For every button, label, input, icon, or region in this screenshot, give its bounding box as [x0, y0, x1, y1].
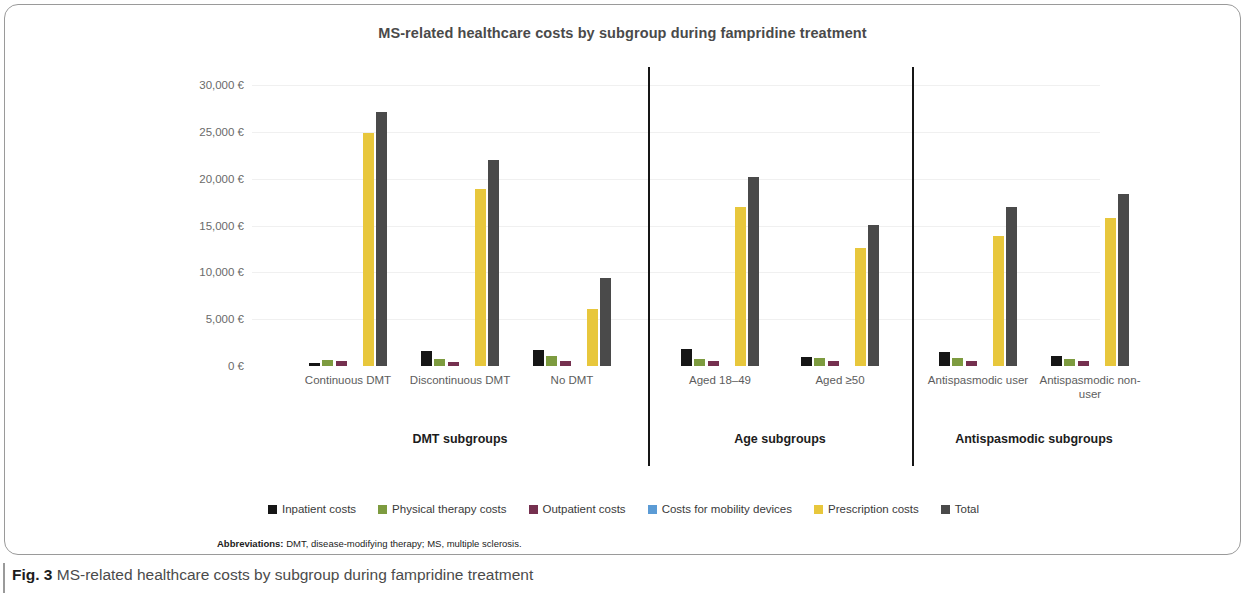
- bar: [801, 357, 812, 366]
- y-axis-tick-label: 15,000 €: [199, 220, 244, 232]
- bar: [475, 189, 486, 366]
- legend-label: Total: [955, 503, 979, 515]
- legend-swatch-icon: [529, 505, 538, 514]
- bar: [1118, 194, 1129, 366]
- bar: [708, 361, 719, 366]
- category-label: Aged 18–49: [665, 373, 775, 387]
- legend-swatch-icon: [378, 505, 387, 514]
- bar: [488, 160, 499, 366]
- section-label: DMT subgroups: [350, 432, 570, 446]
- y-axis-tick-label: 0 €: [228, 360, 244, 372]
- bar: [939, 352, 950, 366]
- bar-group: [309, 85, 388, 366]
- y-axis-tick-label: 10,000 €: [199, 266, 244, 278]
- bar: [993, 236, 1004, 366]
- bar: [363, 133, 374, 366]
- legend-label: Costs for mobility devices: [662, 503, 792, 515]
- bar: [336, 361, 347, 366]
- legend-item[interactable]: Physical therapy costs: [378, 503, 506, 515]
- bar: [376, 112, 387, 366]
- legend-item[interactable]: Prescription costs: [814, 503, 919, 515]
- bar: [1064, 359, 1075, 366]
- bar: [1078, 361, 1089, 366]
- bar: [735, 207, 746, 366]
- bar-group: [533, 85, 612, 366]
- category-label: Discontinuous DMT: [405, 373, 515, 387]
- legend-swatch-icon: [814, 505, 823, 514]
- abbreviations-note: Abbreviations: DMT, disease-modifying th…: [217, 538, 522, 549]
- figure-caption: Fig. 3 MS-related healthcare costs by su…: [12, 566, 533, 584]
- figure-panel: MS-related healthcare costs by subgroup …: [4, 4, 1241, 555]
- bar: [814, 358, 825, 366]
- category-label: Antispasmodic non-user: [1035, 373, 1145, 401]
- bar: [694, 359, 705, 366]
- bar: [1105, 218, 1116, 366]
- bar: [421, 351, 432, 366]
- bar: [966, 361, 977, 366]
- figure-caption-text: MS-related healthcare costs by subgroup …: [57, 566, 533, 583]
- bar: [434, 359, 445, 366]
- bar: [309, 363, 320, 366]
- category-label: No DMT: [517, 373, 627, 387]
- bar: [587, 309, 598, 366]
- y-axis-tick-label: 30,000 €: [199, 79, 244, 91]
- category-label: Continuous DMT: [293, 373, 403, 387]
- bar: [533, 350, 544, 366]
- legend-label: Physical therapy costs: [392, 503, 506, 515]
- bar-group: [801, 85, 880, 366]
- bar: [828, 361, 839, 366]
- caption-rule: [3, 563, 5, 593]
- bar-group: [421, 85, 500, 366]
- plot-area: [252, 85, 1100, 366]
- bar: [600, 278, 611, 366]
- y-axis-tick-label: 5,000 €: [206, 313, 244, 325]
- y-axis-tick-label: 20,000 €: [199, 173, 244, 185]
- bar-group: [939, 85, 1018, 366]
- bar: [546, 356, 557, 366]
- section-label: Age subgroups: [670, 432, 890, 446]
- bar: [855, 248, 866, 366]
- y-axis: 0 €5,000 €10,000 €15,000 €20,000 €25,000…: [180, 85, 248, 370]
- legend-item[interactable]: Outpatient costs: [529, 503, 626, 515]
- legend-item[interactable]: Total: [941, 503, 979, 515]
- bar: [681, 349, 692, 366]
- legend-label: Outpatient costs: [543, 503, 626, 515]
- legend-swatch-icon: [268, 505, 277, 514]
- bar: [1006, 207, 1017, 366]
- legend-label: Prescription costs: [828, 503, 919, 515]
- category-labels: Continuous DMTDiscontinuous DMTNo DMTAge…: [252, 373, 1112, 407]
- section-label: Antispasmodic subgroups: [924, 432, 1144, 446]
- category-label: Antispasmodic user: [923, 373, 1033, 387]
- bar-group: [1051, 85, 1130, 366]
- legend-item[interactable]: Costs for mobility devices: [648, 503, 792, 515]
- bar: [748, 177, 759, 366]
- bar: [560, 361, 571, 366]
- legend-swatch-icon: [648, 505, 657, 514]
- bar: [868, 225, 879, 366]
- chart-legend: Inpatient costsPhysical therapy costsOut…: [5, 503, 1242, 515]
- bar: [952, 358, 963, 366]
- y-axis-tick-label: 25,000 €: [199, 126, 244, 138]
- bar-group: [681, 85, 760, 366]
- section-labels: DMT subgroupsAge subgroupsAntispasmodic …: [252, 432, 1112, 452]
- bar: [322, 360, 333, 366]
- legend-swatch-icon: [941, 505, 950, 514]
- bar: [448, 362, 459, 366]
- bar: [1051, 356, 1062, 366]
- legend-label: Inpatient costs: [282, 503, 356, 515]
- chart-title: MS-related healthcare costs by subgroup …: [5, 25, 1240, 41]
- category-label: Aged ≥50: [785, 373, 895, 387]
- abbreviations-text: DMT, disease-modifying therapy; MS, mult…: [286, 538, 521, 549]
- chart-plot: 0 €5,000 €10,000 €15,000 €20,000 €25,000…: [180, 85, 1100, 370]
- figure-number: Fig. 3: [12, 566, 52, 583]
- abbreviations-label: Abbreviations:: [217, 538, 284, 549]
- legend-item[interactable]: Inpatient costs: [268, 503, 356, 515]
- screenshot-root: MS-related healthcare costs by subgroup …: [0, 0, 1245, 596]
